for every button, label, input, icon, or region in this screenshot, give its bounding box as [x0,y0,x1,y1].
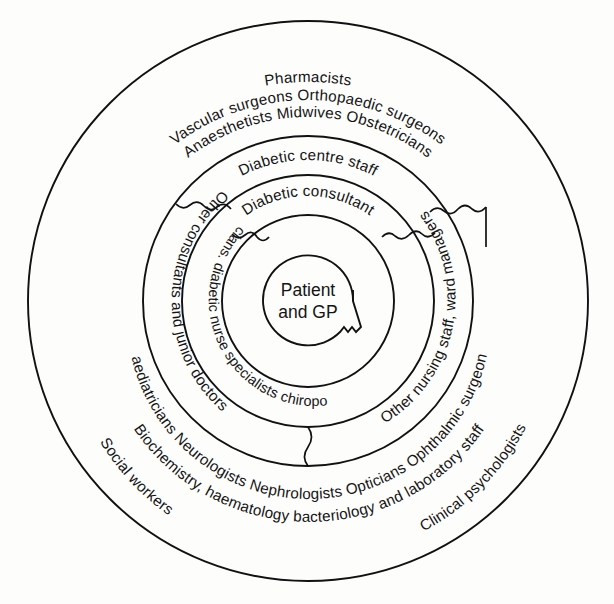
ring-inner-boundary [222,215,394,387]
label-diabetic-consultant: Diabetic consultant [238,182,378,219]
core-label-line2: and GP [278,302,337,322]
core-label-line1: Patient [281,280,336,300]
diagram-canvas: Pharmacists Vascular surgeons Orthopaedi… [0,0,614,604]
label-paediatricians-row: Paediatricians Neurologists Nephrologist… [0,0,490,502]
divider-bottom-vertical [305,427,312,466]
label-pharmacists: Pharmacists [263,68,353,89]
divider-upper-right-outer [430,206,486,214]
concentric-rings-svg: Pharmacists Vascular surgeons Orthopaedi… [0,0,614,604]
core-circle [263,255,361,345]
